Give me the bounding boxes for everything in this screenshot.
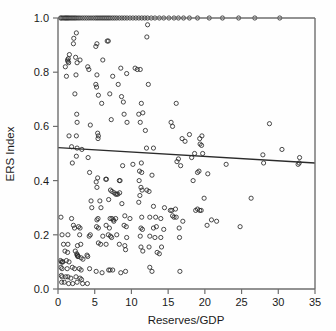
y-axis-title: ERS Index xyxy=(4,126,16,181)
y-tick-label: 0.4 xyxy=(34,175,49,187)
x-tick-label: 5 xyxy=(92,296,98,308)
y-tick-label: 0.8 xyxy=(34,66,49,78)
x-tick-label: 25 xyxy=(235,296,247,308)
x-tick-label: 0 xyxy=(55,296,61,308)
chart-canvas: 05101520253035 0.00.20.40.60.81.0 Reserv… xyxy=(0,0,336,331)
x-tick-label: 20 xyxy=(199,296,211,308)
x-axis-title: Reserves/GDP xyxy=(148,314,225,326)
y-tick-label: 0.0 xyxy=(34,283,49,295)
chart-background xyxy=(0,0,336,331)
x-tick-label: 35 xyxy=(309,296,321,308)
x-tick-label: 10 xyxy=(125,296,137,308)
scatter-plot-figure: 05101520253035 0.00.20.40.60.81.0 Reserv… xyxy=(0,0,336,331)
y-tick-label: 1.0 xyxy=(34,12,49,24)
y-tick-label: 0.2 xyxy=(34,229,49,241)
y-tick-label: 0.6 xyxy=(34,120,49,132)
x-tick-label: 15 xyxy=(162,296,174,308)
x-tick-label: 30 xyxy=(272,296,284,308)
